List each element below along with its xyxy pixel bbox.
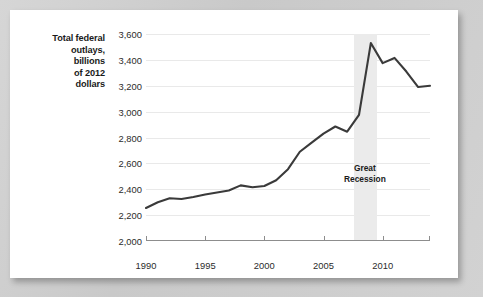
x-tick-label: 2005 [301, 260, 347, 271]
x-axis-line [146, 240, 430, 241]
y-tick-label: 3,000 [102, 106, 142, 117]
plot-area: Great Recession [146, 34, 430, 241]
y-tick-label: 2,000 [102, 236, 142, 247]
y-tick-label: 2,800 [102, 132, 142, 143]
y-axis-tick-labels: 2,0002,2002,4002,6002,8003,0003,2003,400… [102, 34, 142, 241]
y-tick-label: 3,400 [102, 54, 142, 65]
y-axis-title-line-4: of 2012 [22, 68, 105, 80]
x-tick-label: 2000 [241, 260, 287, 271]
y-axis-title: Total federal outlays, billions of 2012 … [22, 33, 105, 91]
x-tick [383, 236, 384, 241]
y-axis-title-line-5: dollars [22, 79, 105, 91]
series-line [146, 34, 430, 241]
y-tick-label: 2,600 [102, 158, 142, 169]
data-line [146, 43, 430, 208]
line-chart: Total federal outlays, billions of 2012 … [10, 10, 458, 278]
y-tick-label: 3,200 [102, 80, 142, 91]
x-tick [205, 236, 206, 241]
x-tick-label: 1995 [182, 260, 228, 271]
y-tick-label: 3,600 [102, 29, 142, 40]
x-tick-label: 2010 [360, 260, 406, 271]
y-axis-title-line-3: billions [22, 56, 105, 68]
x-axis-end-cap [146, 236, 147, 241]
x-tick-label: 1990 [123, 260, 169, 271]
y-axis-title-line-2: outlays, [22, 45, 105, 57]
figure-card: Total federal outlays, billions of 2012 … [10, 10, 458, 278]
x-axis-tick-labels: 19901995200020052010 [146, 251, 430, 271]
y-axis-title-line-1: Total federal [22, 33, 105, 45]
y-tick-label: 2,200 [102, 210, 142, 221]
x-tick [324, 236, 325, 241]
y-tick-label: 2,400 [102, 184, 142, 195]
x-tick [264, 236, 265, 241]
x-axis-end-cap [429, 236, 430, 241]
